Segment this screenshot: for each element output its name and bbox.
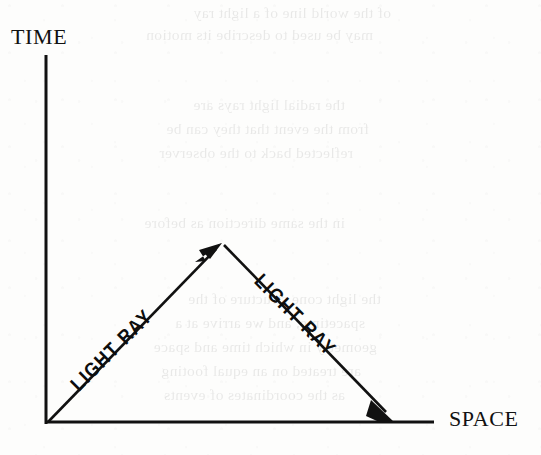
space-axis-label: SPACE (449, 408, 518, 430)
time-axis-label: TIME (11, 26, 67, 48)
figure-canvas: of the world line of a light raymay be u… (0, 0, 541, 455)
light-ray-arrowhead-descending (366, 400, 394, 422)
